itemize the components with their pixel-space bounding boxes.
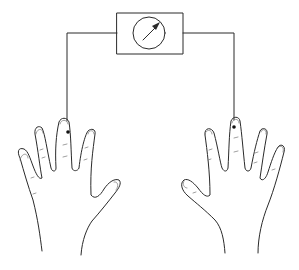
meter-box — [117, 13, 183, 54]
right-wire — [183, 33, 234, 120]
gauge-icon — [133, 17, 165, 49]
left-wire — [67, 33, 117, 121]
right-electrode-dot — [232, 125, 236, 129]
left-hand — [18, 118, 120, 255]
diagram-canvas — [0, 0, 299, 270]
right-hand — [182, 117, 285, 253]
left-electrode-dot — [66, 130, 70, 134]
